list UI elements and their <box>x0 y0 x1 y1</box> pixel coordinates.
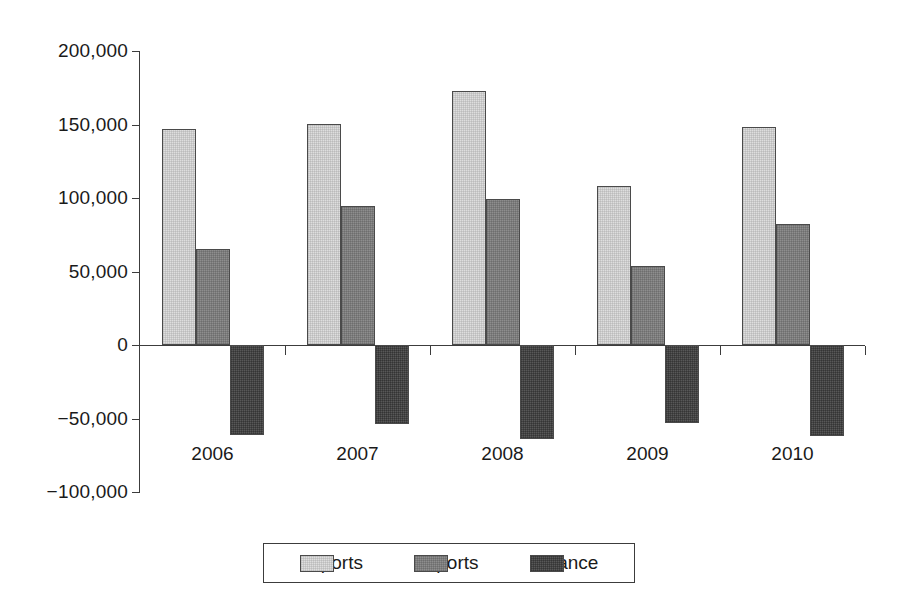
y-axis-tick <box>132 51 140 52</box>
bar-exports-2008 <box>486 199 520 345</box>
chart-legend: Imports Exports Balance <box>263 543 635 583</box>
bar-imports-2006 <box>162 129 196 345</box>
x-axis-end-cap <box>865 346 866 355</box>
legend-swatch-imports <box>300 555 334 572</box>
x-axis-label-2008: 2008 <box>481 443 523 465</box>
y-axis-tick <box>132 345 140 346</box>
bar-exports-2010 <box>776 224 810 345</box>
x-axis-label-2006: 2006 <box>191 443 233 465</box>
y-axis-tick <box>132 419 140 420</box>
y-axis-tick-label: −50,000 <box>57 408 128 430</box>
y-axis-tick <box>132 272 140 273</box>
bar-exports-2007 <box>341 206 375 345</box>
legend-swatch-exports <box>414 555 448 572</box>
legend-item-balance[interactable]: Balance <box>530 552 599 574</box>
y-axis-tick <box>132 198 140 199</box>
bar-imports-2009 <box>597 186 631 345</box>
x-axis-label-2007: 2007 <box>336 443 378 465</box>
bar-imports-2008 <box>452 91 486 345</box>
bar-imports-2010 <box>742 127 776 345</box>
x-axis-tick <box>430 346 431 355</box>
y-axis-tick-label: 100,000 <box>58 187 128 209</box>
bar-exports-2006 <box>196 249 230 345</box>
x-axis-tick <box>720 346 721 355</box>
legend-item-exports[interactable]: Exports <box>414 552 478 574</box>
bar-balance-2006 <box>230 345 264 435</box>
bar-balance-2008 <box>520 345 554 439</box>
x-axis-tick <box>575 346 576 355</box>
legend-swatch-balance <box>530 555 564 572</box>
y-axis-tick-label: −100,000 <box>47 481 128 503</box>
legend-item-imports[interactable]: Imports <box>300 552 363 574</box>
y-axis-tick-label: 150,000 <box>58 114 128 136</box>
y-axis-tick-label: 0 <box>117 334 128 356</box>
x-axis-label-2010: 2010 <box>771 443 813 465</box>
y-axis-tick-label: 200,000 <box>58 40 128 62</box>
bar-exports-2009 <box>631 266 665 345</box>
x-axis-label-2009: 2009 <box>626 443 668 465</box>
y-axis-tick <box>132 492 140 493</box>
bar-balance-2007 <box>375 345 409 424</box>
x-axis-tick <box>285 346 286 355</box>
y-axis-tick <box>132 125 140 126</box>
y-axis-tick-label: 50,000 <box>69 261 128 283</box>
bar-imports-2007 <box>307 124 341 345</box>
bar-balance-2009 <box>665 345 699 423</box>
bar-balance-2010 <box>810 345 844 436</box>
bar-chart-figure: 200,000150,000100,00050,0000−50,000−100,… <box>0 0 898 614</box>
